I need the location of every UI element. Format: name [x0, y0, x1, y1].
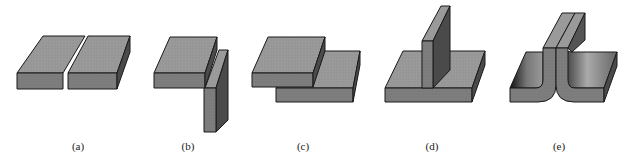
panel-e-label: (e) [544, 140, 574, 152]
joint-figure [0, 0, 635, 158]
panel-d-tee-joint [385, 6, 485, 102]
panel-c-lap-joint [252, 37, 360, 102]
panel-b-corner-joint [154, 37, 228, 132]
panel-b-label: (b) [173, 140, 203, 152]
panel-a-label: (a) [63, 140, 93, 152]
panel-e-edge-joint [510, 13, 617, 102]
panel-d-label: (d) [417, 140, 447, 152]
panel-a-butt-joint [17, 36, 130, 89]
panel-c-label: (c) [288, 140, 318, 152]
